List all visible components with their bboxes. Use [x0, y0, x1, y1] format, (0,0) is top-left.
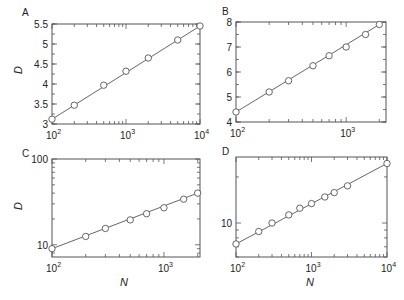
data-point — [194, 190, 200, 196]
panel-c: 10210310100 — [31, 154, 201, 274]
panel-label-d: D — [222, 146, 229, 157]
panel-label-a: A — [22, 7, 29, 18]
y-tick-label: 5 — [42, 39, 48, 50]
data-point — [308, 200, 314, 206]
y-tick-label: 100 — [31, 154, 48, 165]
data-point — [362, 31, 368, 37]
data-point — [101, 82, 107, 88]
y-axis-label-c: D — [12, 202, 24, 210]
data-point — [123, 68, 129, 74]
y-tick-label: 4.5 — [34, 59, 48, 70]
data-point — [127, 217, 133, 223]
data-point — [161, 205, 167, 211]
y-tick-label: 8 — [226, 17, 232, 28]
y-tick-label: 5.5 — [34, 19, 48, 30]
y-tick-label: 4 — [226, 117, 232, 128]
data-point — [310, 63, 316, 69]
data-point — [102, 225, 108, 231]
x-tick-label: 103 — [120, 128, 135, 141]
x-tick-label: 103 — [158, 261, 173, 274]
x-tick-label: 104 — [381, 261, 396, 274]
y-tick-label: 10 — [221, 218, 233, 229]
panel-d: 10210310410 — [221, 157, 396, 274]
y-tick-label: 3 — [42, 119, 48, 130]
data-point — [266, 89, 272, 95]
data-point — [233, 241, 239, 247]
data-point — [286, 212, 292, 218]
data-point — [143, 211, 149, 217]
data-point — [175, 37, 181, 43]
data-point — [197, 23, 203, 29]
data-point — [82, 233, 88, 239]
data-point — [49, 116, 55, 122]
y-tick-label: 6 — [226, 67, 232, 78]
x-tick-label: 102 — [46, 128, 61, 141]
x-tick-label: 102 — [230, 261, 245, 274]
data-point — [256, 228, 262, 234]
data-point — [376, 21, 382, 27]
plot-frame — [52, 159, 200, 257]
data-point — [326, 53, 332, 59]
panel-b: 10210345678 — [226, 17, 386, 139]
data-point — [331, 189, 337, 195]
y-tick-label: 4 — [42, 79, 48, 90]
x-axis-label-c: N — [120, 276, 128, 288]
x-tick-label: 102 — [230, 126, 245, 139]
y-tick-label: 7 — [226, 42, 232, 53]
data-point — [322, 194, 328, 200]
data-point — [145, 55, 151, 61]
y-tick-label: 3.5 — [34, 99, 48, 110]
panel-label-c: C — [22, 148, 29, 159]
y-axis-label-a: D — [12, 66, 24, 74]
x-tick-label: 104 — [194, 128, 209, 141]
fit-line — [52, 193, 198, 249]
data-point — [269, 220, 275, 226]
data-point — [344, 183, 350, 189]
panel-label-b: B — [222, 6, 229, 17]
x-tick-label: 102 — [46, 261, 61, 274]
data-point — [297, 205, 303, 211]
data-point — [233, 109, 239, 115]
data-point — [71, 102, 77, 108]
x-axis-label-d: N — [306, 276, 314, 288]
panel-a: 10210310433.544.555.5 — [34, 19, 209, 141]
fit-line — [236, 25, 379, 113]
data-point — [343, 44, 349, 50]
data-point — [285, 78, 291, 84]
figure: 10210310433.544.555.51021034567810210310… — [0, 0, 404, 300]
data-point — [384, 160, 390, 166]
x-tick-label: 103 — [340, 126, 355, 139]
data-point — [180, 196, 186, 202]
y-tick-label: 5 — [226, 92, 232, 103]
x-tick-label: 103 — [306, 261, 321, 274]
data-point — [49, 245, 55, 251]
y-tick-label: 10 — [37, 240, 49, 251]
